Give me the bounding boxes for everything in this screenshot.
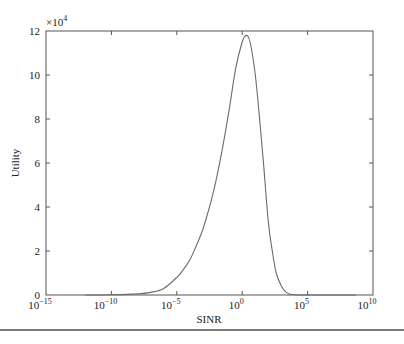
plot-frame <box>46 31 373 295</box>
x-axis-title: SINR <box>196 313 222 325</box>
x-tick-label: 105 <box>294 297 309 311</box>
x-tick-label: 10−5 <box>161 297 181 311</box>
y-multiplier: ×104 <box>46 14 67 28</box>
x-tick-label: 100 <box>229 297 244 311</box>
y-tick-label: 4 <box>35 201 41 213</box>
y-tick-label: 2 <box>35 245 41 257</box>
y-tick-label: 0 <box>35 289 41 301</box>
y-axis-title: Utility <box>9 148 21 177</box>
x-tick-label: 10−15 <box>28 297 52 311</box>
series-line <box>85 35 356 295</box>
bottom-divider <box>0 329 404 331</box>
x-tick-label: 10−10 <box>94 297 118 311</box>
y-axis-ticks: 024681012 <box>29 25 373 301</box>
x-axis-ticks: 10−1510−1010−51001051010 <box>28 31 376 311</box>
x-tick-label: 1010 <box>358 297 377 311</box>
y-tick-label: 12 <box>29 25 40 37</box>
y-tick-label: 10 <box>29 69 41 81</box>
utility-curve <box>85 35 356 295</box>
y-tick-label: 8 <box>35 113 41 125</box>
y-tick-label: 6 <box>35 157 41 169</box>
utility-vs-sinr-chart: 10−1510−1010−51001051010 024681012 ×104 … <box>0 0 404 344</box>
